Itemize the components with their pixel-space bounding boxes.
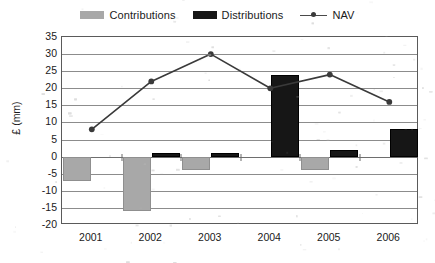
y-axis-tick-labels: 35302520151050-5-10-15-20 [28, 0, 57, 263]
nav-data-point [208, 51, 214, 57]
nav-data-point [148, 79, 154, 85]
black-square-swatch-icon [193, 11, 217, 19]
y-axis-tick-label: -10 [28, 184, 57, 196]
y-axis-tick-label: 10 [28, 115, 57, 127]
legend-item-contributions: Contributions [80, 9, 175, 21]
legend-label-nav: NAV [332, 9, 354, 21]
y-axis-tick-label: -15 [28, 201, 57, 213]
chart-legend: Contributions Distributions NAV [0, 9, 435, 21]
nav-data-point [89, 126, 95, 132]
y-axis-tick-label: 5 [28, 133, 57, 145]
y-axis-tick-label: 35 [28, 30, 57, 42]
y-axis-tick-label: 20 [28, 81, 57, 93]
x-axis-tick-label: 2004 [258, 231, 281, 243]
nav-data-point [267, 85, 273, 91]
nav-data-point [327, 72, 333, 78]
nav-line-path [92, 54, 390, 129]
nav-data-point [386, 99, 392, 105]
y-axis-tick-label: 25 [28, 64, 57, 76]
y-axis-tick-label: 15 [28, 98, 57, 110]
x-axis-tick-labels: 200120022003200420052006 [61, 231, 418, 247]
x-axis-tick-label: 2001 [79, 231, 102, 243]
legend-label-contributions: Contributions [109, 9, 175, 21]
legend-item-distributions: Distributions [193, 9, 284, 21]
x-axis-tick-label: 2005 [317, 231, 340, 243]
y-axis-tick-label: -20 [28, 218, 57, 230]
x-axis-tick-label: 2002 [139, 231, 162, 243]
x-axis-tick-label: 2003 [198, 231, 221, 243]
plot-area [61, 36, 418, 224]
y-axis-tick-label: 0 [28, 150, 57, 162]
legend-item-nav: NAV [300, 9, 354, 21]
nav-line-series [62, 37, 419, 225]
x-axis-tick-label: 2006 [377, 231, 400, 243]
legend-label-distributions: Distributions [222, 9, 284, 21]
y-axis-tick-label: 30 [28, 47, 57, 59]
line-with-round-marker-icon [300, 11, 327, 20]
y-axis-title: £ (mm) [10, 88, 22, 148]
gray-square-swatch-icon [80, 11, 104, 19]
y-axis-tick-label: -5 [28, 167, 57, 179]
